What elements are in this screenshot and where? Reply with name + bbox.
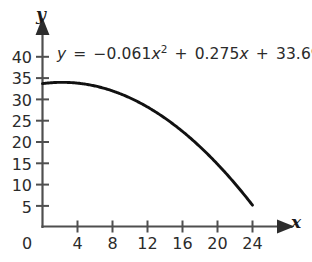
y-tick-label: 20 [2, 135, 32, 151]
equation-term2-var: x [240, 45, 249, 63]
y-tick-label: 35 [2, 71, 32, 87]
y-tick-label: 40 [2, 50, 32, 66]
x-tick-label: 24 [238, 236, 268, 252]
x-tick-label: 12 [133, 236, 163, 252]
chart-figure: y x 40 35 30 25 20 15 10 5 0 4 8 12 16 2… [0, 0, 312, 262]
equation-term2-coef: 0.275 [195, 45, 240, 63]
y-axis-label: y [36, 4, 46, 24]
x-tick-label: 8 [98, 236, 128, 252]
x-axis-label: x [291, 212, 301, 232]
y-tick-label: 15 [2, 157, 32, 173]
equation-plus-1: + [175, 45, 188, 63]
y-tick-label: 25 [2, 114, 32, 130]
y-tick-label: 10 [2, 178, 32, 194]
equation-term1-coef: −0.061 [93, 45, 151, 63]
x-tick-label: 4 [63, 236, 93, 252]
y-tick-label: 5 [2, 200, 32, 216]
plot-area [0, 0, 312, 262]
quadratic-curve [43, 82, 253, 205]
equation-annotation: y = −0.061x2 + 0.275x + 33.698 [57, 45, 312, 63]
equation-plus-2: + [256, 45, 269, 63]
equation-lhs: y [57, 45, 66, 63]
equation-term1-var: x [151, 45, 160, 63]
y-tick-label: 30 [2, 93, 32, 109]
x-tick-label: 20 [203, 236, 233, 252]
equation-constant: 33.698 [276, 45, 312, 63]
x-tick-label: 16 [168, 236, 198, 252]
equation-equals: = [73, 45, 86, 63]
x-tick-label: 0 [12, 236, 42, 252]
